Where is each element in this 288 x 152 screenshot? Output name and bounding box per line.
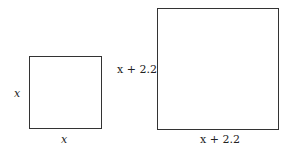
small-square-left-label: x xyxy=(14,88,20,99)
large-square xyxy=(157,8,279,130)
large-square-bottom-label: x + 2.2 xyxy=(200,134,240,145)
small-square xyxy=(29,56,102,129)
large-square-left-label: x + 2.2 xyxy=(117,64,157,75)
small-square-bottom-label: x xyxy=(61,134,67,145)
